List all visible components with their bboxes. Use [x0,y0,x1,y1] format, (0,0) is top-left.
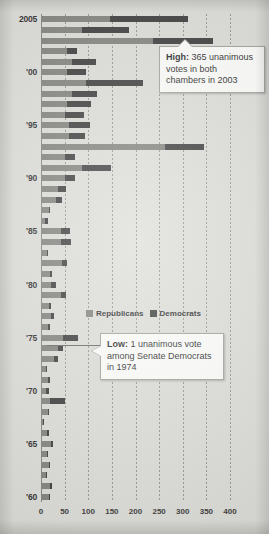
bar-row [41,80,143,86]
bar-segment-democrats [62,260,67,266]
bar-segment-democrats [49,303,52,309]
bar-segment-democrats [69,133,85,139]
bar-segment-democrats [72,91,97,97]
callout-high-pointer [178,40,192,47]
bar-segment-democrats [67,69,86,75]
bar-segment-democrats [45,218,48,224]
x-axis-tick-150: 150 [105,507,118,516]
bar-segment-democrats [61,228,70,234]
bar-segment-republicans [41,165,82,171]
bar-segment-democrats [63,335,78,341]
x-axis-labels: 050100150200250300350400 [0,507,269,523]
bar-row [41,250,48,256]
legend-swatch-democrats [150,310,157,317]
bar-segment-democrats [65,112,84,118]
bar-segment-democrats [48,377,51,383]
y-axis-tick-70: '70 [26,386,37,396]
bar-segment-democrats [82,165,111,171]
bar-segment-republicans [41,260,62,266]
bar-segment-democrats [49,494,50,500]
bar-segment-democrats [48,324,51,330]
y-axis-tick-2005: 2005 [19,14,37,24]
bar-segment-democrats [50,271,53,277]
y-axis-tick-00: '00 [26,67,37,77]
bar-segment-democrats [67,101,91,107]
x-axis-tick-200: 200 [129,507,142,516]
bar-segment-republicans [41,144,165,150]
bar-row [41,366,47,372]
bar-segment-democrats [54,356,58,362]
callout-low: Low: 1 unanimous vote among Senate Democ… [100,333,224,380]
bar-segment-republicans [41,27,82,33]
bar-segment-republicans [41,154,65,160]
bar-segment-republicans [41,133,69,139]
bar-row [41,122,90,128]
y-axis-labels: 2005'00'95'90'85'80'75'70'65'60 [0,14,41,502]
bar-segment-democrats [51,313,54,319]
bar-row [41,398,65,404]
bar-segment-republicans [41,271,50,277]
bar-segment-republicans [41,356,54,362]
bar-row [41,260,67,266]
x-axis-tick-400: 400 [223,507,236,516]
bar-segment-democrats [61,239,71,245]
bar-segment-republicans [41,59,72,65]
bar-segment-republicans [41,186,58,192]
bar-segment-democrats [61,292,66,298]
bar-row [41,282,56,288]
bar-row [41,228,70,234]
bar-row [41,335,78,341]
bar-segment-republicans [41,494,49,500]
bar-segment-republicans [41,69,67,75]
bar-segment-republicans [41,398,50,404]
bar-row [41,388,49,394]
bar-segment-democrats [72,59,96,65]
bar-segment-republicans [41,441,51,447]
bar-segment-republicans [41,112,65,118]
bar-segment-republicans [41,228,61,234]
x-axis-tick-50: 50 [60,507,69,516]
bar-row [41,175,75,181]
bar-row [41,271,52,277]
bar-segment-republicans [41,80,86,86]
bar-segment-republicans [41,409,48,415]
y-axis-tick-90: '90 [26,173,37,183]
bar-row [41,165,111,171]
bar-segment-democrats [65,175,75,181]
legend-item-democrats: Democrats [150,309,201,318]
bar-segment-republicans [41,483,50,489]
bar-segment-democrats [47,451,48,457]
x-axis-tick-250: 250 [152,507,165,516]
callout-low-pointer [92,346,101,356]
bar-row [41,27,129,33]
bar-segment-democrats [65,154,75,160]
bar-row [41,324,50,330]
bar-segment-democrats [46,388,49,394]
bar-row [41,101,91,107]
bar-segment-republicans [41,16,110,22]
bar-segment-democrats [47,430,49,436]
bar-row [41,144,204,150]
bar-segment-democrats [165,144,205,150]
bar-segment-democrats [67,48,76,54]
bar-segment-democrats [47,250,48,256]
bar-segment-republicans [41,38,153,44]
bar-segment-republicans [41,313,51,319]
bar-segment-republicans [41,101,67,107]
bar-segment-republicans [41,462,49,468]
bar-row [41,91,97,97]
x-axis-tick-300: 300 [176,507,189,516]
x-axis-tick-0: 0 [39,507,43,516]
bar-segment-democrats [56,197,62,203]
bar-segment-democrats [110,16,188,22]
bar-segment-republicans [41,282,51,288]
y-axis-tick-85: '85 [26,226,37,236]
bar-row [41,430,49,436]
bar-row [41,345,63,351]
bar-segment-republicans [41,303,49,309]
bar-row [41,409,49,415]
bar-segment-republicans [41,239,61,245]
bar-row [41,494,49,500]
bar-segment-democrats [49,207,50,213]
bar-segment-republicans [41,207,49,213]
